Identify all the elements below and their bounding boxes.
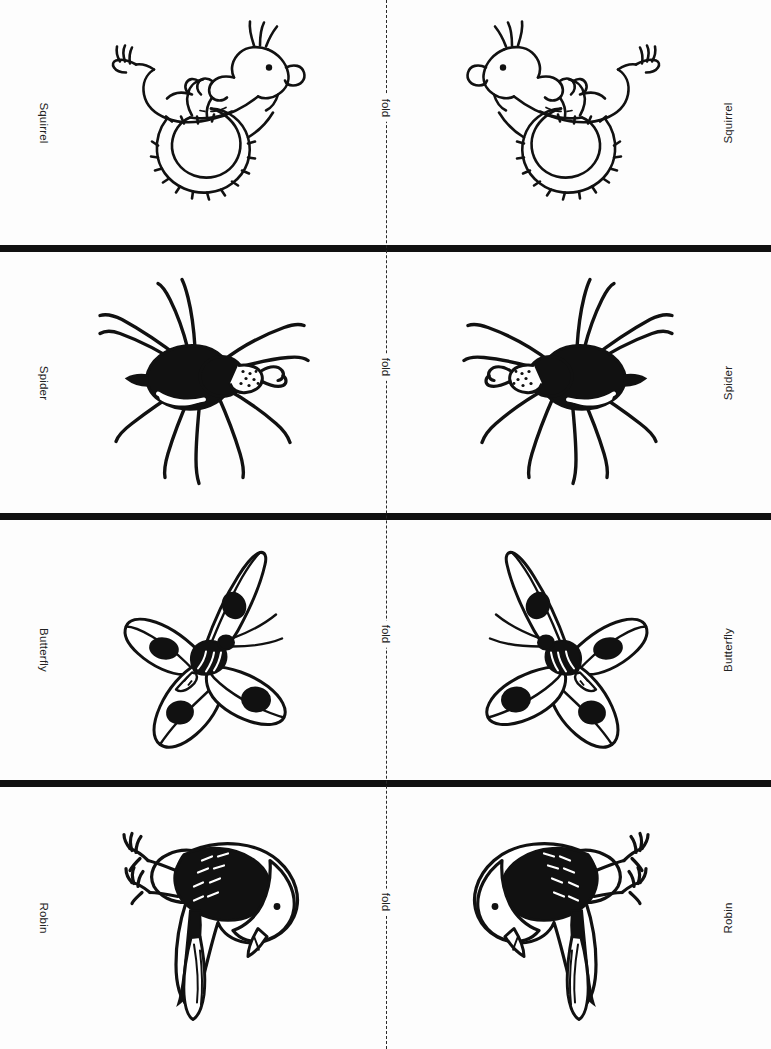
squirrel-icon-mirrored <box>430 15 700 230</box>
fold-label-1: fold <box>378 95 394 122</box>
label-robin-right: Robin <box>722 902 734 933</box>
label-squirrel-right: Squirrel <box>722 102 734 143</box>
spider-icon-mirrored <box>430 275 700 490</box>
squirrel-icon <box>72 15 342 230</box>
card-half-left-squirrel: Squirrel <box>0 0 386 245</box>
fold-label-3: fold <box>378 621 394 648</box>
card-half-right-butterfly: Butterfly <box>386 520 771 780</box>
fold-label-2: fold <box>378 354 394 381</box>
label-spider-left: Spider <box>38 365 50 399</box>
label-butterfly-right: Butterfly <box>722 628 734 672</box>
card-half-left-butterfly: Butterfly <box>0 520 386 780</box>
label-robin-left: Robin <box>38 902 50 933</box>
card-half-right-robin: Robin <box>386 787 771 1049</box>
robin-icon-mirrored <box>430 811 700 1026</box>
label-squirrel-left: Squirrel <box>38 102 50 143</box>
label-butterfly-left: Butterfly <box>38 628 50 672</box>
butterfly-icon <box>72 543 342 758</box>
card-half-right-squirrel: Squirrel <box>386 0 771 245</box>
worksheet-sheet: fold Squirrel <box>0 0 771 1049</box>
card-half-left-robin: Robin <box>0 787 386 1049</box>
label-spider-right: Spider <box>722 365 734 399</box>
butterfly-icon-mirrored <box>430 543 700 758</box>
card-half-right-spider: Spider <box>386 252 771 513</box>
card-half-left-spider: Spider <box>0 252 386 513</box>
robin-icon <box>72 811 342 1026</box>
spider-icon <box>72 275 342 490</box>
fold-label-4: fold <box>378 889 394 916</box>
